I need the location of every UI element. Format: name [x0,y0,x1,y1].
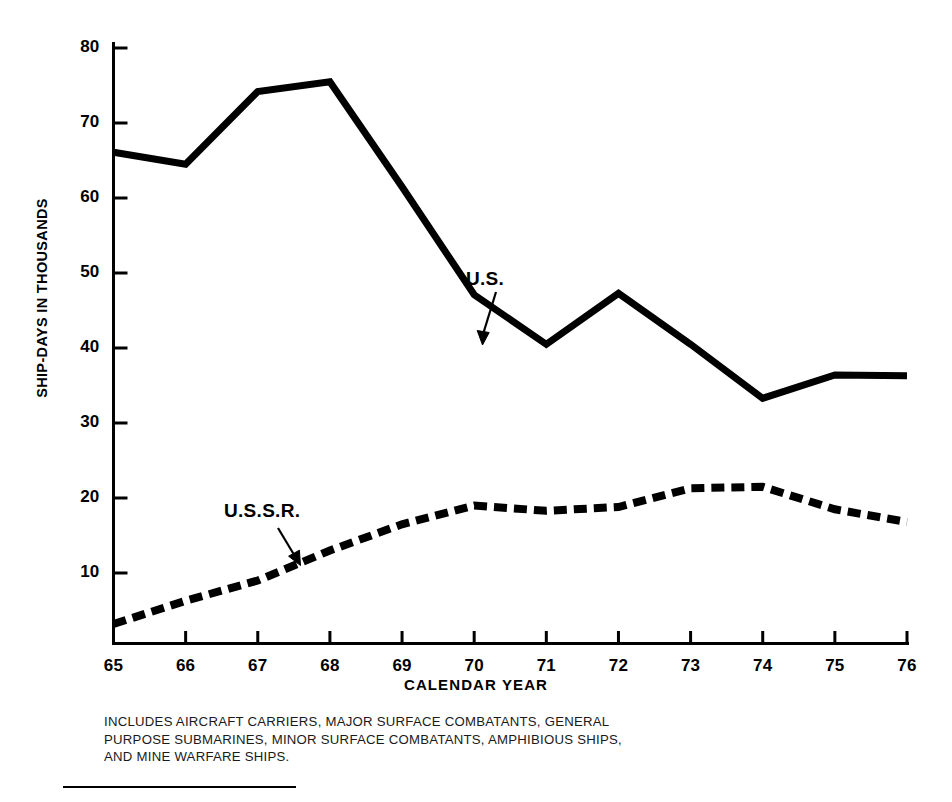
y-axis-ticks [113,48,128,573]
x-tick-label-66: 66 [166,656,206,676]
footnote-line-1: INCLUDES AIRCRAFT CARRIERS, MAJOR SURFAC… [104,713,764,731]
x-tick-label-75: 75 [815,656,855,676]
x-axis-title: CALENDAR YEAR [0,676,952,693]
y-tick-label-30: 30 [56,412,100,432]
x-tick-label-73: 73 [671,656,711,676]
x-tick-label-76: 76 [887,656,927,676]
axis-lines [112,42,909,645]
x-tick-label-70: 70 [454,656,494,676]
x-tick-label-74: 74 [743,656,783,676]
x-tick-label-65: 65 [94,656,134,676]
y-tick-label-50: 50 [56,262,100,282]
arrow-ussr [278,528,301,566]
series-label-us: U.S. [466,268,504,290]
y-tick-label-70: 70 [56,112,100,132]
x-tick-label-67: 67 [238,656,278,676]
x-axis-ticks [114,631,908,643]
y-tick-label-80: 80 [56,37,100,57]
y-tick-label-60: 60 [56,187,100,207]
y-tick-label-20: 20 [56,487,100,507]
x-tick-label-68: 68 [310,656,350,676]
footnote-line-3: AND MINE WARFARE SHIPS. [104,748,764,766]
chart-footnote: INCLUDES AIRCRAFT CARRIERS, MAJOR SURFAC… [104,713,764,766]
series-line-us [114,82,908,399]
series-label-ussr: U.S.S.R. [224,500,300,522]
chart-page: SHIP-DAYS IN THOUSANDS 1020304050607080 … [0,0,952,802]
annotation-arrows [278,292,496,566]
y-tick-label-40: 40 [56,337,100,357]
x-tick-label-72: 72 [598,656,638,676]
x-tick-label-71: 71 [526,656,566,676]
y-tick-label-10: 10 [56,562,100,582]
y-axis-title: SHIP-DAYS IN THOUSANDS [34,168,50,428]
footnote-line-2: PURPOSE SUBMARINES, MINOR SURFACE COMBAT… [104,731,764,749]
footnote-rule [63,786,296,788]
x-tick-label-69: 69 [382,656,422,676]
